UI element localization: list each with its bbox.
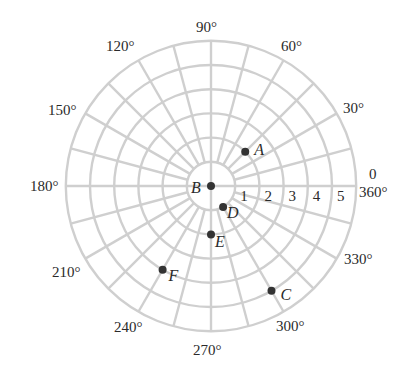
- radial-label-1: 1: [240, 189, 248, 204]
- spoke-75: [217, 46, 248, 163]
- angle-label: 300°: [276, 319, 305, 334]
- angle-label: 210°: [52, 265, 81, 280]
- angle-label: 0: [369, 167, 377, 182]
- radial-label-4: 4: [313, 189, 321, 204]
- angle-label: 360°: [359, 185, 388, 200]
- angle-label: 270°: [193, 343, 222, 358]
- point-label-b: B: [191, 180, 201, 196]
- spoke-225: [108, 203, 194, 289]
- angle-label: 330°: [344, 252, 373, 267]
- spoke-105: [173, 46, 204, 163]
- radial-label-5: 5: [337, 189, 345, 204]
- spoke-285: [217, 209, 248, 326]
- polar-grid-diagram: ABCDEF1234590°60°120°30°150°0360°180°330…: [0, 0, 410, 374]
- angle-label: 60°: [281, 39, 302, 54]
- spoke-135: [108, 83, 194, 169]
- angle-label: 120°: [106, 39, 135, 54]
- radial-label-2: 2: [264, 189, 272, 204]
- point-e: [207, 230, 215, 238]
- point-label-a: A: [254, 142, 264, 158]
- angle-label: 30°: [343, 101, 364, 116]
- spoke-15: [234, 148, 351, 179]
- angle-label: 90°: [196, 20, 217, 35]
- angle-label: 180°: [30, 179, 59, 194]
- angle-label: 150°: [48, 103, 77, 118]
- point-b: [207, 182, 215, 190]
- point-label-d: D: [227, 205, 239, 221]
- point-label-f: F: [169, 268, 179, 284]
- point-label-c: C: [281, 287, 292, 303]
- radial-label-3: 3: [289, 189, 297, 204]
- point-f: [159, 266, 167, 274]
- point-a: [241, 148, 249, 156]
- polar-grid: [0, 0, 410, 374]
- spoke-315: [228, 203, 314, 289]
- point-label-e: E: [215, 234, 225, 250]
- spoke-195: [71, 192, 188, 223]
- spoke-45: [228, 83, 314, 169]
- point-d: [219, 203, 227, 211]
- point-c: [268, 287, 276, 295]
- spoke-165: [71, 148, 188, 179]
- angle-label: 240°: [114, 320, 143, 335]
